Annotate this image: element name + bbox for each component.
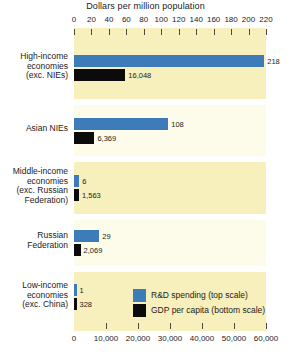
bottom-axis-tick-label: 60,000 [254,334,278,343]
bar-rd-spending [74,175,79,187]
top-axis-tick-label: 140 [189,15,202,24]
category-label-line: (exc. NIEs) [0,71,68,81]
legend-label-rd-spending: R&D spending (top scale) [151,290,248,300]
bottom-axis-tick-label: 20,000 [126,334,150,343]
top-axis-tick-band [74,28,266,37]
top-axis-tick-mark [214,29,215,35]
rd-spending-gdp-bar-chart: Dollars per million population 020406080… [0,0,291,356]
category-label: Middle-incomeeconomies(exc. RussianFeder… [0,167,68,205]
bar-value-rd-spending: 218 [267,58,280,66]
legend-item-gdp-per-capita: GDP per capita (bottom scale) [133,303,291,318]
bottom-axis-tick-mark [170,323,171,329]
bottom-axis-tick-mark [202,323,203,329]
bar-rd-spending [74,55,264,67]
top-axis-tick-label: 60 [122,15,131,24]
bottom-axis-tick-label: 30,000 [158,334,182,343]
category-label-line: Asian NIEs [0,124,68,134]
chart-legend: R&D spending (top scale) GDP per capita … [133,288,291,318]
category-label: RussianFederation [0,231,68,250]
bar-gdp-per-capita [74,189,79,201]
chart-row: RussianFederation292,069 [0,220,291,266]
bottom-axis-tick-band [74,322,266,331]
category-label-line: Federation [0,241,68,251]
top-axis-tick-label: 80 [139,15,148,24]
top-axis-tick-mark [161,29,162,35]
bar-value-gdp-per-capita: 6,369 [97,135,116,143]
top-axis-tick-mark [179,29,180,35]
top-axis-tick-label: 100 [155,15,168,24]
bar-value-gdp-per-capita: 2,069 [84,247,103,255]
top-axis-tick-label: 180 [224,15,237,24]
chart-row: High-incomeeconomies(exc. NIEs)21816,048 [0,37,291,99]
bottom-axis-tick-mark [234,323,235,329]
top-axis-tick-mark [74,29,75,35]
top-axis-tick-label: 20 [87,15,96,24]
bottom-axis-tick-mark [266,323,267,329]
bar-rd-spending [74,118,168,130]
bar-value-rd-spending: 6 [82,178,86,186]
legend-swatch-blue-icon [133,289,146,302]
chart-row: Middle-incomeeconomies(exc. RussianFeder… [0,162,291,214]
top-axis-tick-mark [249,29,250,35]
top-axis-tick-mark [109,29,110,35]
bar-value-rd-spending: 29 [102,233,110,241]
bar-gdp-per-capita [74,244,81,256]
top-axis-tick-mark [144,29,145,35]
category-label-line: Federation) [0,196,68,206]
bar-value-gdp-per-capita: 328 [80,301,93,309]
bar-rd-spending [74,230,99,242]
top-axis-tick-label: 120 [172,15,185,24]
bottom-axis-tick-mark [106,323,107,329]
category-label: High-incomeeconomies(exc. NIEs) [0,52,68,81]
top-axis-tick-label: 220 [259,15,272,24]
top-axis-tick-label: 160 [207,15,220,24]
chart-axis-title: Dollars per million population [0,1,291,11]
bar-rd-spending [74,284,77,296]
top-axis-tick-labels: 020406080100120140160180200220 [0,15,291,27]
top-axis-tick-mark [126,29,127,35]
bottom-axis-tick-label: 40,000 [190,334,214,343]
bar-value-gdp-per-capita: 1,563 [82,192,101,200]
category-label-line: (exc. China) [0,300,68,310]
bottom-axis-tick-label: 10,000 [94,334,118,343]
bottom-axis-tick-mark [138,323,139,329]
legend-label-gdp-per-capita: GDP per capita (bottom scale) [151,305,265,315]
top-axis-tick-mark [231,29,232,35]
bottom-axis-tick-labels: 010,00020,00030,00040,00050,00060,000 [0,334,291,346]
category-label: Low-incomeeconomies(exc. China) [0,281,68,310]
bar-gdp-per-capita [74,298,77,310]
category-label: Asian NIEs [0,124,68,134]
bar-value-gdp-per-capita: 16,048 [128,72,151,80]
top-axis-tick-mark [91,29,92,35]
legend-swatch-black-icon [133,304,146,317]
bottom-axis-tick-label: 0 [72,334,76,343]
bottom-axis-tick-label: 50,000 [222,334,246,343]
bar-gdp-per-capita [74,132,94,144]
top-axis-tick-label: 0 [72,15,76,24]
bar-gdp-per-capita [74,69,125,81]
bar-value-rd-spending: 1 [80,287,84,295]
top-axis-tick-mark [196,29,197,35]
chart-row: Asian NIEs1086,369 [0,105,291,156]
bar-value-rd-spending: 108 [171,121,184,129]
top-axis-tick-mark [266,29,267,35]
top-axis-tick-label: 200 [242,15,255,24]
legend-item-rd-spending: R&D spending (top scale) [133,288,291,303]
top-axis-tick-label: 40 [104,15,113,24]
